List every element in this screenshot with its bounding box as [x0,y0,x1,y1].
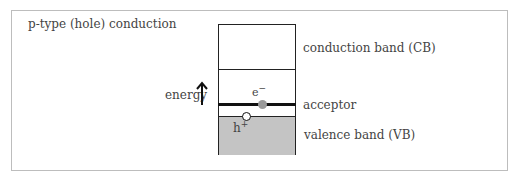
up-arrow-icon [195,80,209,106]
acceptor-level-line [218,103,296,106]
hole-label: h+ [233,121,248,135]
diagram-title: p-type (hole) conduction [28,17,176,31]
valence-band-fill [219,116,295,155]
electron-dot [258,100,267,109]
valence-band-label: valence band (VB) [304,128,415,142]
conduction-band-label: conduction band (CB) [303,41,436,55]
electron-label: e− [252,86,266,99]
conduction-band-edge [218,69,296,70]
acceptor-label: acceptor [303,98,356,112]
